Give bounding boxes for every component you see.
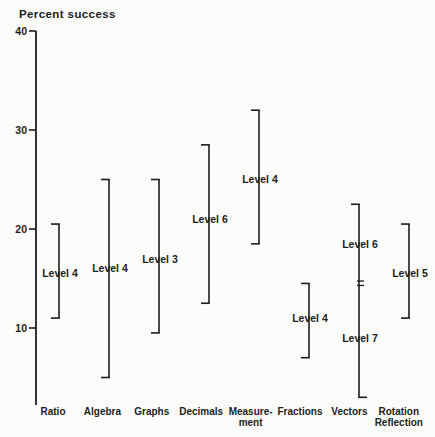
category-label-vectors-0: Vectors xyxy=(331,406,368,417)
level-label-measurement-0: Level 4 xyxy=(242,173,278,185)
y-tick-label-30: 30 xyxy=(15,124,27,136)
y-tick-label-10: 10 xyxy=(15,322,27,334)
level-label-fractions-0: Level 4 xyxy=(292,312,328,324)
plot-svg: 10203040Level 4RatioLevel 4AlgebraLevel … xyxy=(0,0,435,437)
level-label-vectors-0: Level 6 xyxy=(342,238,378,250)
category-label-rotation-reflection-1: Reflection xyxy=(375,417,423,428)
category-label-algebra-0: Algebra xyxy=(84,406,122,417)
level-label-ratio-0: Level 4 xyxy=(42,267,78,279)
category-label-decimals-0: Decimals xyxy=(179,406,223,417)
level-label-rotation-reflection-0: Level 5 xyxy=(392,267,428,279)
level-label-algebra-0: Level 4 xyxy=(92,262,128,274)
y-tick-label-20: 20 xyxy=(15,223,27,235)
level-label-decimals-0: Level 6 xyxy=(192,213,228,225)
level-label-graphs-0: Level 3 xyxy=(142,253,178,265)
category-label-fractions-0: Fractions xyxy=(277,406,322,417)
level-label-vectors-1: Level 7 xyxy=(342,332,378,344)
category-label-measurement-1: ment xyxy=(239,417,264,428)
category-label-measurement-0: Measure- xyxy=(229,406,273,417)
y-tick-label-40: 40 xyxy=(15,25,27,37)
category-label-graphs-0: Graphs xyxy=(134,406,169,417)
category-label-ratio-0: Ratio xyxy=(41,406,66,417)
category-label-rotation-reflection-0: Rotation xyxy=(379,406,420,417)
figure-page: Percent success 10203040Level 4RatioLeve… xyxy=(0,0,435,437)
